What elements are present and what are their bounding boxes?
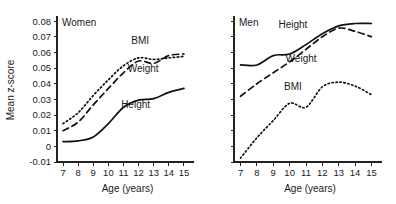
y-tick-label-left-7: 0.06 — [33, 47, 52, 58]
y-tick-label-left-4: 0.03 — [33, 94, 52, 105]
series-curve-right-bmi — [241, 82, 372, 158]
x-tick-label-left-2: 9 — [91, 167, 96, 178]
x-tick-label-right-3: 10 — [284, 167, 295, 178]
x-tick-label-right-1: 8 — [254, 167, 259, 178]
panel-left: -0.0100.010.020.030.040.050.060.070.0878… — [5, 16, 194, 194]
y-tick-label-left-1: 0 — [46, 141, 51, 152]
series-label-left-height: Height — [121, 99, 150, 110]
x-tick-label-left-1: 8 — [76, 167, 81, 178]
x-tick-label-right-6: 13 — [333, 167, 344, 178]
panel-title-left: Women — [62, 17, 96, 28]
y-tick-label-left-3: 0.02 — [33, 109, 52, 120]
figure-root: -0.0100.010.020.030.040.050.060.070.0878… — [0, 0, 396, 204]
x-tick-label-left-6: 13 — [148, 167, 159, 178]
panel-title-right: Men — [239, 17, 258, 28]
x-tick-label-left-4: 11 — [119, 167, 129, 178]
x-axis-title-left: Age (years) — [102, 183, 154, 194]
y-tick-label-left-9: 0.08 — [33, 16, 52, 27]
x-tick-label-right-4: 11 — [301, 167, 311, 178]
x-tick-label-left-5: 12 — [133, 167, 144, 178]
series-label-right-weight: Weight — [286, 53, 317, 64]
series-curve-left-bmi — [63, 56, 184, 123]
y-tick-label-left-6: 0.05 — [33, 62, 52, 73]
y-tick-label-left-8: 0.07 — [33, 31, 52, 42]
y-tick-label-left-5: 0.04 — [33, 78, 52, 89]
y-tick-label-left-0: -0.01 — [29, 156, 51, 167]
x-tick-label-left-3: 10 — [103, 167, 114, 178]
series-label-right-bmi: BMI — [284, 81, 302, 92]
x-axis-title-right: Age (years) — [284, 183, 336, 194]
x-tick-label-right-2: 9 — [271, 167, 276, 178]
x-tick-label-right-0: 7 — [238, 167, 243, 178]
chart-canvas: -0.0100.010.020.030.040.050.060.070.0878… — [0, 0, 396, 204]
panel-right: 789101112131415Age (years)MenHeightWeigh… — [231, 16, 383, 194]
y-tick-label-left-2: 0.01 — [33, 125, 52, 136]
y-axis-title-left: Mean z-score — [5, 59, 16, 120]
series-label-left-bmi: BMI — [131, 35, 149, 46]
x-tick-label-right-7: 14 — [350, 167, 361, 178]
series-curve-left-height — [63, 88, 184, 141]
series-label-right-height: Height — [278, 19, 307, 30]
x-tick-label-left-8: 15 — [179, 167, 190, 178]
x-tick-label-right-5: 12 — [317, 167, 328, 178]
x-tick-label-left-7: 14 — [164, 167, 175, 178]
series-label-left-weight: Weight — [128, 63, 159, 74]
x-tick-label-left-0: 7 — [60, 167, 65, 178]
x-tick-label-right-8: 15 — [366, 167, 377, 178]
